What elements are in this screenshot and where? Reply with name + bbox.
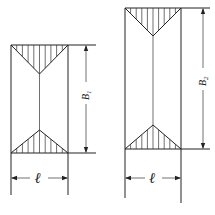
fig2-height-label: B2: [197, 76, 210, 86]
figure-2: B2 ℓ: [125, 8, 210, 203]
fig2-width-label: ℓ: [149, 170, 155, 186]
fig1-height-label: B1: [80, 90, 93, 100]
fig1-width-label: ℓ: [35, 170, 41, 186]
diagram-canvas: B1 ℓ B2 ℓ: [0, 0, 215, 215]
fig1-bottom-hatching: [17, 130, 63, 153]
fig1-top-hatching: [17, 45, 63, 74]
fig2-bottom-hatching: [131, 125, 176, 149]
svg-text:B2: B2: [197, 76, 210, 86]
svg-text:B1: B1: [80, 90, 93, 100]
figure-1: B1 ℓ: [11, 45, 96, 195]
fig2-top-hatching: [131, 8, 176, 36]
